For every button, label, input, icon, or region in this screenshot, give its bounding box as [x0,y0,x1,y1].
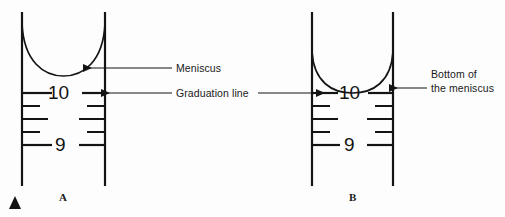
callout-meniscus: Meniscus [176,62,221,75]
panel-a-letter: A [59,191,67,203]
callout-graduation-line: Graduation line [176,87,249,100]
panel-b-graduation-number-9: 9 [344,134,355,156]
callout-bottom-of-meniscus-line2: the meniscus [431,82,494,95]
meniscus-diagram: 10 9 10 9 Meniscus Graduation line Botto… [0,0,505,217]
panel-b-graduation-number-10: 10 [339,82,360,104]
panel-b-letter: B [349,191,356,203]
corner-triangle-marker [9,196,21,209]
callout-bottom-of-meniscus-line1: Bottom of [431,68,477,81]
callout-leader-lines [83,68,427,93]
panel-a-graduation-number-9: 9 [55,134,66,156]
diagram-canvas [0,0,505,217]
panel-a-graduation-number-10: 10 [48,82,69,104]
